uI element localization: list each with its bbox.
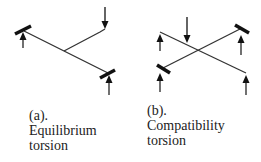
- arrow-up-icon: [243, 75, 250, 83]
- branch-beam-a: [64, 29, 105, 51]
- arrow-up-icon: [157, 73, 164, 81]
- fixed-support-bl-b: [157, 65, 170, 73]
- arrow-up-icon: [238, 35, 245, 43]
- arrow-up-icon: [157, 34, 164, 42]
- caption-a-line1: Equilibrium: [29, 123, 97, 138]
- fixed-support-right-a: [100, 70, 115, 78]
- arrow-up-icon: [20, 32, 27, 40]
- figure-b-compatibility: [157, 17, 250, 95]
- caption-b: (b). Compatibility torsion: [147, 103, 225, 148]
- caption-a-label: (a).: [29, 108, 97, 123]
- caption-a: (a). Equilibrium torsion: [29, 108, 97, 153]
- arrow-down-icon: [102, 21, 109, 29]
- caption-b-label: (b).: [147, 103, 225, 118]
- beam-1-b: [160, 32, 246, 73]
- arrow-down-icon: [184, 35, 191, 43]
- figure-a-equilibrium: [15, 7, 115, 95]
- caption-a-line2: torsion: [29, 138, 97, 153]
- main-beam-a: [24, 31, 108, 73]
- caption-b-line1: Compatibility: [147, 118, 225, 133]
- caption-b-line2: torsion: [147, 133, 225, 148]
- beam-2-b: [163, 29, 240, 68]
- fixed-support-tr-b: [235, 25, 249, 33]
